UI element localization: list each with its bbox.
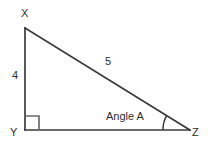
side-length-label-leg: 4 (12, 70, 18, 81)
triangle-diagram-svg (0, 0, 208, 144)
angle-a-label: Angle A (106, 111, 144, 122)
triangle-figure: X Y Z 4 5 Angle A (0, 0, 208, 144)
angle-arc-icon (163, 115, 167, 130)
vertex-label-x: X (21, 8, 28, 19)
side-length-label-hypotenuse: 5 (105, 56, 111, 67)
vertex-label-z: Z (192, 127, 199, 138)
vertex-label-y: Y (10, 127, 17, 138)
right-angle-marker-icon (25, 116, 39, 130)
